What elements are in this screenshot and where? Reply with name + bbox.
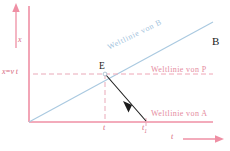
worldline-p-label: Weltlinie von P (151, 66, 207, 74)
t-axis-label: t (171, 133, 173, 141)
tick-label-t: t (103, 124, 105, 132)
tick-label-t1: t1 (142, 124, 147, 134)
page-letter: B (212, 36, 219, 47)
spacetime-diagram (0, 0, 230, 151)
event-label-E: E (99, 62, 105, 72)
x-axis-label: x (18, 36, 22, 44)
x-equals-vt-label: x=v t (2, 68, 18, 76)
tick-label-t1-sub: 1 (144, 128, 147, 134)
event-marker-E (103, 72, 107, 76)
worldline-a-label: Weltlinie von A (151, 110, 207, 118)
t-axis-arrow (183, 135, 224, 142)
signal-arrow (106, 75, 146, 121)
